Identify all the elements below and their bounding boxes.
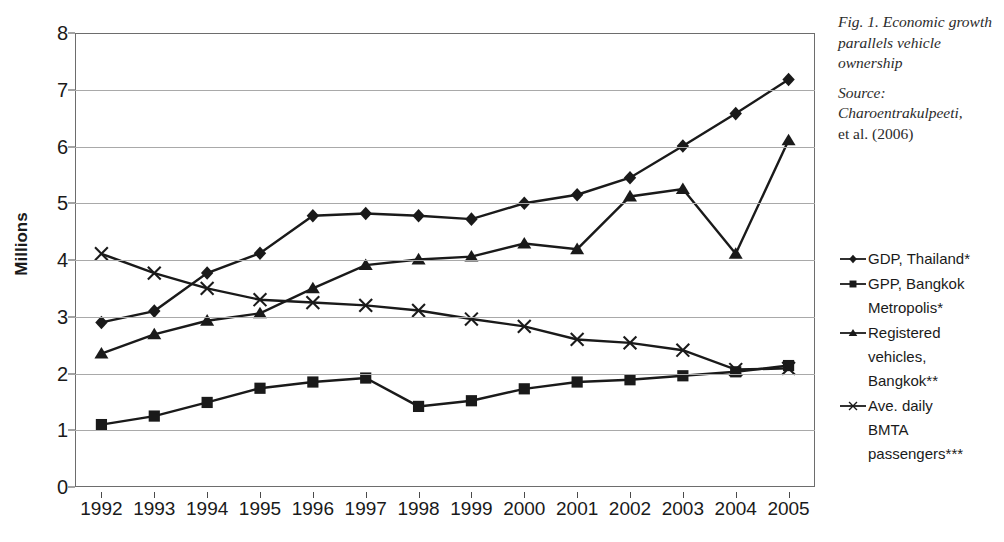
x-tick-mark [471, 492, 472, 498]
gridline [75, 430, 815, 431]
y-tick-mark [68, 316, 75, 317]
data-point-marker [517, 237, 531, 249]
cross-marker-icon [838, 394, 868, 418]
y-tick-label: 8 [57, 22, 68, 45]
gridline [75, 203, 815, 204]
diamond-marker-icon [838, 247, 868, 271]
series-3 [94, 134, 795, 359]
triangle-marker-icon [838, 321, 868, 345]
y-axis-title-text: Millions [12, 212, 32, 275]
legend-item[interactable]: Registered vehicles, Bangkok** [838, 321, 1004, 393]
data-point-marker [782, 73, 794, 87]
data-point-marker [201, 266, 213, 280]
x-tick-label: 1999 [450, 498, 492, 520]
figure-root: Millions 012345678 199219931994199519961… [0, 0, 1004, 542]
caption-source-rest: et al. (2006) [838, 125, 913, 142]
legend-item[interactable]: GPP, Bangkok Metropolis* [838, 272, 1004, 320]
y-tick-mark [68, 487, 75, 488]
data-point-marker [677, 370, 688, 381]
figure-caption: Fig. 1. Economic growth parallels vehicl… [838, 12, 1002, 145]
data-point-marker [307, 376, 318, 387]
legend-item[interactable]: GDP, Thailand* [838, 247, 1004, 271]
x-tick-label: 1993 [133, 498, 175, 520]
x-tick-label: 1994 [186, 498, 228, 520]
y-tick-mark [68, 146, 75, 147]
y-tick-mark [68, 430, 75, 431]
y-tick-label: 5 [57, 192, 68, 215]
series-2 [96, 360, 794, 430]
x-tick-mark [101, 492, 102, 498]
data-point-marker [412, 209, 424, 223]
y-tick-label: 7 [57, 78, 68, 101]
x-tick-label: 2005 [767, 498, 809, 520]
y-tick-label: 0 [57, 476, 68, 499]
y-tick-mark [68, 33, 75, 34]
x-tick-mark [260, 492, 261, 498]
x-axis-tick-labels: 1992199319941995199619971998199920002001… [75, 492, 815, 532]
data-point-marker [466, 395, 477, 406]
y-tick-label: 1 [57, 419, 68, 442]
caption-source-label: Source: [838, 84, 886, 101]
y-axis-title: Millions [8, 0, 36, 487]
data-point-marker [465, 212, 477, 226]
y-tick-label: 2 [57, 362, 68, 385]
x-tick-label: 1997 [345, 498, 387, 520]
x-tick-label: 2000 [503, 498, 545, 520]
data-point-marker [730, 107, 742, 121]
gridline [75, 374, 815, 375]
x-tick-mark [683, 492, 684, 498]
data-point-marker [360, 207, 372, 221]
data-point-marker [254, 246, 266, 260]
x-tick-mark [154, 492, 155, 498]
x-tick-mark [789, 492, 790, 498]
data-point-marker [307, 209, 319, 223]
data-point-marker [306, 282, 320, 294]
x-tick-label: 2004 [715, 498, 757, 520]
legend-item[interactable]: Ave. daily BMTA passengers*** [838, 394, 1004, 466]
data-point-marker [676, 182, 690, 194]
data-point-marker [148, 267, 161, 280]
square-marker-icon [838, 272, 868, 296]
x-tick-label: 1995 [239, 498, 281, 520]
x-tick-mark [577, 492, 578, 498]
data-point-marker [149, 410, 160, 421]
x-tick-mark [366, 492, 367, 498]
x-tick-mark [736, 492, 737, 498]
x-tick-mark [313, 492, 314, 498]
caption-source: Source: Charoentrakulpeeti, et al. (2006… [838, 83, 1002, 145]
y-tick-mark [68, 203, 75, 204]
chart-canvas: Millions 012345678 199219931994199519961… [0, 0, 822, 542]
x-tick-label: 1998 [397, 498, 439, 520]
legend-item-label: GDP, Thailand* [868, 247, 970, 271]
data-point-marker [254, 383, 265, 394]
y-tick-label: 3 [57, 305, 68, 328]
data-point-marker [782, 134, 796, 146]
data-point-marker [96, 419, 107, 430]
data-point-marker [202, 397, 213, 408]
caption-title: Fig. 1. Economic growth parallels vehicl… [838, 12, 1002, 74]
gridline [75, 90, 815, 91]
x-tick-label: 1996 [292, 498, 334, 520]
data-point-marker [95, 247, 108, 260]
legend-item-label: GPP, Bangkok Metropolis* [868, 272, 964, 320]
x-tick-mark [207, 492, 208, 498]
series-4 [95, 247, 795, 376]
data-point-marker [413, 401, 424, 412]
y-tick-label: 6 [57, 135, 68, 158]
data-point-marker [624, 374, 635, 385]
plot-area [75, 33, 815, 487]
series-1 [95, 73, 795, 329]
gridline [75, 260, 815, 261]
y-tick-mark [68, 373, 75, 374]
x-tick-label: 2002 [609, 498, 651, 520]
x-tick-label: 2001 [556, 498, 598, 520]
data-point-marker [519, 383, 530, 394]
data-point-marker [571, 188, 583, 202]
caption-source-name: Charoentrakulpeeti, [838, 104, 963, 121]
gridline [75, 317, 815, 318]
x-tick-mark [630, 492, 631, 498]
x-tick-mark [524, 492, 525, 498]
data-point-marker [624, 171, 636, 185]
legend-item-label: Ave. daily BMTA passengers*** [868, 394, 963, 466]
x-tick-label: 2003 [662, 498, 704, 520]
